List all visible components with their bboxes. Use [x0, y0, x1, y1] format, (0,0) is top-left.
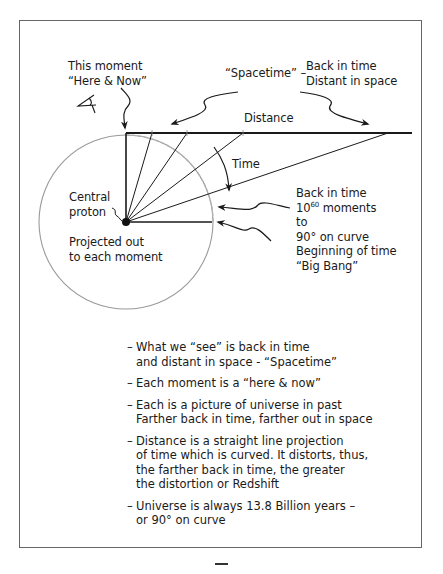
proton-arrow [112, 208, 122, 221]
spacetime-arrow-right [300, 92, 368, 124]
note-item: Each moment is a “here & now” [127, 376, 372, 391]
central-proton-label: Central proton [69, 190, 110, 219]
eye-icon [78, 95, 96, 113]
notes-list: What we “see” is back in time and distan… [127, 340, 372, 535]
spacetime-label: “Spacetime” – [225, 66, 306, 81]
note-item: Universe is always 13.8 Billion years – … [127, 499, 372, 528]
here-now-arrow [121, 88, 130, 128]
page-separator [215, 563, 228, 565]
distance-label: Distance [244, 111, 294, 126]
back-in-time-label: Back in time 1060 moments to 90° on curv… [296, 186, 397, 273]
back-distant-label: Back in time Distant in space [306, 59, 397, 88]
spacetime-arrow-left [172, 92, 238, 124]
note-item: Each is a picture of universe in past Fa… [127, 398, 372, 427]
projected-label: Projected out to each moment [69, 235, 163, 264]
note-item: What we “see” is back in time and distan… [127, 340, 372, 369]
back-in-time-arrow [219, 203, 290, 210]
note-item: Distance is a straight line projection o… [127, 434, 372, 492]
big-bang-arrow [218, 222, 271, 241]
time-label: Time [232, 157, 260, 172]
central-proton-dot [122, 218, 130, 226]
this-moment-label: This moment “Here & Now” [68, 59, 147, 88]
